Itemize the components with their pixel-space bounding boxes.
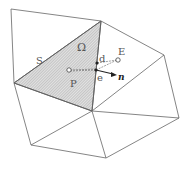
label-s: S [36, 55, 43, 66]
point-e-node [116, 58, 120, 62]
label-n: n [118, 72, 125, 82]
control-volume-omega [14, 21, 101, 111]
label-e-upper: E [118, 46, 125, 57]
label-e-lower: e [97, 72, 103, 83]
point-p-node [67, 68, 71, 72]
mesh-diagram: Ω S P E d e n [0, 0, 187, 169]
label-omega: Ω [77, 41, 86, 54]
label-p: P [70, 78, 77, 89]
label-d: d [99, 53, 106, 64]
